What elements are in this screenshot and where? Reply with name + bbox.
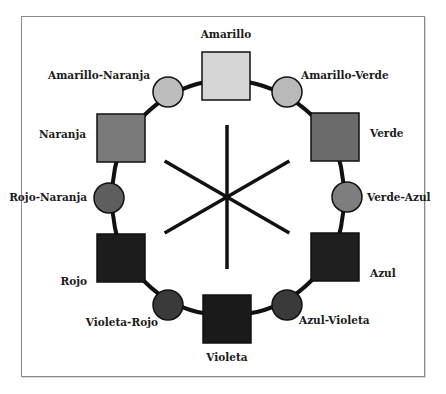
color-square-amarillo [202,52,250,100]
color-circle-verde-azul [332,182,362,212]
label-amarillo: Amarillo [200,28,252,40]
label-naranja: Naranja [39,128,86,140]
color-square-violeta [203,295,251,343]
label-azul-violeta: Azul-Violeta [298,314,370,326]
label-amarillo-verde: Amarillo-Verde [300,69,389,81]
color-circle-rojo-naranja [94,183,124,213]
label-rojo-naranja: Rojo-Naranja [9,191,87,203]
color-circle-amarillo-naranja [153,77,183,107]
color-circle-azul-violeta [272,290,302,320]
label-rojo: Rojo [60,275,87,287]
color-wheel-diagram: AmarilloAmarillo-VerdeVerdeVerde-AzulAzu… [0,0,446,394]
color-square-naranja [97,114,145,162]
color-circle-amarillo-verde [272,77,302,107]
label-verde-azul: Verde-Azul [366,191,431,203]
label-violeta: Violeta [205,351,247,363]
color-wheel-canvas: AmarilloAmarillo-VerdeVerdeVerde-AzulAzu… [0,0,446,394]
label-violeta-rojo: Violeta-Rojo [85,316,158,328]
label-azul: Azul [369,267,396,279]
color-square-verde [311,113,359,161]
label-verde: Verde [369,127,404,139]
label-amarillo-naranja: Amarillo-Naranja [47,69,150,81]
center-asterisk-icon [165,125,290,269]
color-square-azul [311,233,359,281]
color-square-rojo [97,234,145,282]
